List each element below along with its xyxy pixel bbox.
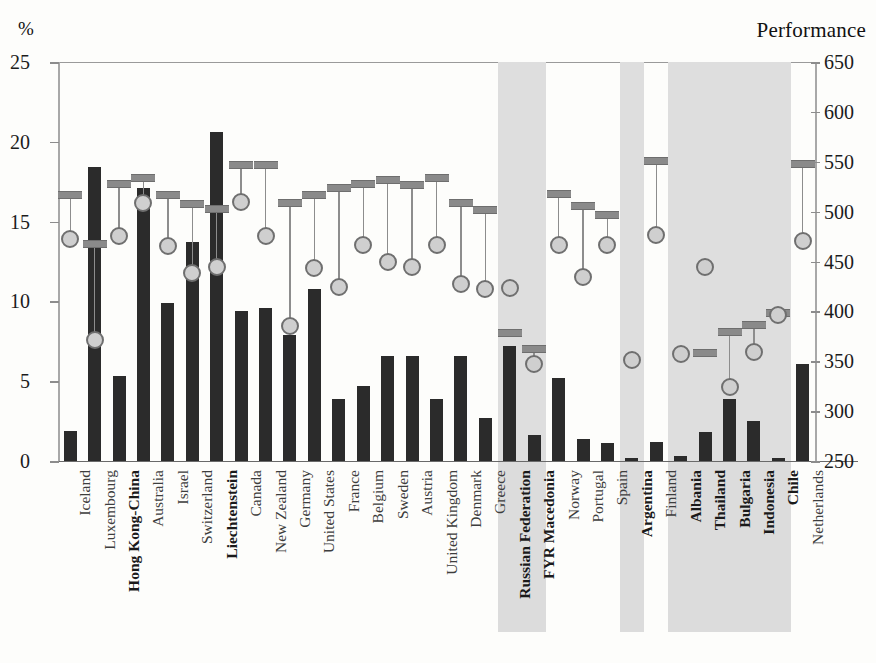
range-stem — [314, 195, 315, 269]
category-label: Sweden — [394, 470, 412, 630]
category-label: Russian Federation — [516, 470, 534, 630]
shaded-band — [742, 62, 766, 462]
category-label: Hong Kong-China — [125, 470, 143, 630]
category-label: Iceland — [76, 470, 94, 630]
bar — [308, 289, 321, 461]
bar — [210, 132, 223, 461]
bottom-level-marker — [574, 268, 592, 286]
shaded-band — [522, 62, 546, 462]
left-axis-unit-label: % — [18, 18, 34, 40]
category-label: Greece — [491, 470, 509, 630]
top-level-marker — [107, 180, 131, 188]
range-stem — [582, 206, 583, 278]
category-label: Denmark — [467, 470, 485, 630]
bar — [650, 442, 663, 461]
bottom-level-marker — [428, 236, 446, 254]
bar — [796, 364, 809, 461]
top-level-marker — [644, 157, 668, 165]
top-level-marker — [742, 321, 766, 329]
bottom-level-marker — [354, 236, 372, 254]
bar — [601, 443, 614, 461]
top-level-marker — [376, 176, 400, 184]
top-level-marker — [205, 205, 229, 213]
category-label: Albania — [687, 470, 705, 630]
left-tick-label: 20 — [0, 130, 30, 153]
bar — [259, 308, 272, 461]
category-label: Norway — [565, 470, 583, 630]
left-tick-label: 10 — [0, 290, 30, 313]
category-label: Canada — [247, 470, 265, 630]
bottom-level-marker — [257, 227, 275, 245]
top-level-marker — [571, 202, 595, 210]
bar — [528, 435, 541, 461]
bar — [332, 399, 345, 461]
category-label: Switzerland — [198, 470, 216, 630]
top-level-marker — [522, 345, 546, 353]
bottom-level-marker — [721, 378, 739, 396]
category-label: Israel — [174, 470, 192, 630]
category-label: France — [345, 470, 363, 630]
bar — [552, 378, 565, 461]
left-tick-label: 0 — [0, 450, 30, 473]
right-tick — [811, 361, 820, 363]
left-tick — [50, 222, 59, 224]
top-level-marker — [254, 161, 278, 169]
left-tick — [50, 62, 59, 64]
right-tick — [811, 411, 820, 413]
bottom-level-marker — [623, 351, 641, 369]
right-tick — [811, 212, 820, 214]
top-level-marker — [156, 191, 180, 199]
range-stem — [94, 244, 95, 341]
bar — [577, 439, 590, 461]
left-tick-label: 25 — [0, 51, 30, 74]
left-axis-line — [58, 62, 60, 462]
bar — [723, 399, 736, 461]
bottom-level-marker — [403, 258, 421, 276]
range-stem — [411, 185, 412, 268]
bar — [503, 346, 516, 461]
top-level-marker — [400, 181, 424, 189]
shaded-band — [620, 62, 644, 462]
bottom-level-marker — [550, 236, 568, 254]
shaded-band — [668, 62, 692, 462]
bar — [479, 418, 492, 461]
bar — [430, 399, 443, 461]
top-level-marker — [547, 190, 571, 198]
right-tick — [811, 62, 820, 64]
category-label: Bulgaria — [736, 470, 754, 630]
bottom-level-marker — [647, 226, 665, 244]
bottom-level-marker — [476, 280, 494, 298]
bottom-level-marker — [598, 236, 616, 254]
bottom-level-marker — [159, 237, 177, 255]
bar — [113, 376, 126, 461]
category-label: Spain — [613, 470, 631, 630]
range-stem — [436, 178, 437, 245]
right-tick — [811, 311, 820, 313]
bottom-level-marker — [61, 230, 79, 248]
bottom-level-marker — [330, 278, 348, 296]
left-tick-label: 5 — [0, 370, 30, 393]
top-level-marker — [595, 211, 619, 219]
top-level-marker — [278, 199, 302, 207]
left-tick — [50, 381, 59, 383]
range-stem — [192, 204, 193, 274]
category-label: Argentina — [638, 470, 656, 630]
bottom-level-marker — [305, 259, 323, 277]
top-level-marker — [58, 191, 82, 199]
category-label: Liechtenstein — [223, 470, 241, 630]
top-level-marker — [351, 180, 375, 188]
category-label: Finland — [662, 470, 680, 630]
bar — [235, 311, 248, 461]
legend: Percentage of students (bar, left axis) … — [846, 62, 876, 462]
category-label: Chile — [784, 470, 802, 630]
top-level-marker — [327, 184, 351, 192]
top-level-marker — [229, 161, 253, 169]
legend-item-2-label: Bottom performance level (right axis) — [846, 62, 847, 63]
category-label: United States — [320, 470, 338, 630]
bar — [406, 356, 419, 461]
bottom-level-marker — [281, 317, 299, 335]
bar — [454, 356, 467, 461]
bar — [747, 421, 760, 461]
top-level-marker — [180, 200, 204, 208]
category-label: Portugal — [589, 470, 607, 630]
